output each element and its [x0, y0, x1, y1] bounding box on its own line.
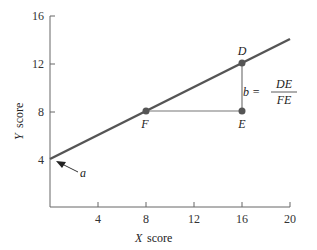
svg-text:Y: Y — [12, 132, 26, 140]
svg-text:score: score — [12, 103, 26, 128]
svg-text:X: X — [134, 231, 143, 245]
svg-text:DE: DE — [275, 77, 293, 91]
svg-text:FE: FE — [276, 93, 292, 107]
label-F: F — [140, 117, 149, 131]
slope-formula: b = DE FE — [243, 77, 297, 107]
x-tick-8: 8 — [143, 212, 149, 226]
y-tick-8: 8 — [38, 105, 44, 119]
y-tick-12: 12 — [32, 57, 44, 71]
label-E: E — [237, 117, 246, 131]
point-F — [143, 108, 150, 115]
regression-line — [50, 39, 290, 159]
x-tick-12: 12 — [188, 212, 200, 226]
point-D — [239, 60, 246, 67]
y-ticks — [50, 16, 55, 112]
label-D: D — [237, 44, 247, 58]
arrow-head-icon — [56, 161, 66, 168]
x-axis-label: X score — [134, 231, 172, 245]
svg-text:b =: b = — [243, 85, 260, 99]
y-axis-label: Y score — [12, 103, 26, 140]
x-tick-20: 20 — [284, 212, 296, 226]
x-tick-16: 16 — [236, 212, 248, 226]
x-tick-4: 4 — [95, 212, 101, 226]
intercept-label: a — [80, 166, 86, 180]
x-ticks — [98, 202, 290, 207]
y-tick-4: 4 — [38, 153, 44, 167]
regression-chart: 16 12 8 4 4 8 12 16 20 X score Y score F… — [0, 0, 317, 250]
point-E — [239, 108, 246, 115]
svg-text:score: score — [147, 231, 172, 245]
y-tick-16: 16 — [32, 9, 44, 23]
